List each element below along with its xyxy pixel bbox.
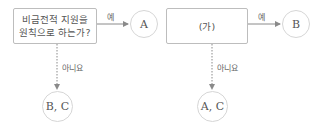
result-circle-no-2: A, C <box>197 91 228 122</box>
result-circle-no-1: B, C <box>42 91 73 122</box>
decision-box-2: (가) <box>166 8 248 44</box>
question-line-1: (가) <box>199 20 215 33</box>
result-text: A, C <box>201 100 224 113</box>
no-label-2: 아니요 <box>217 62 238 73</box>
decision-box-1: 비금전적 지원을 원칙으로 하는가? <box>13 8 97 44</box>
result-circle-yes-1: A <box>130 10 158 38</box>
no-label-1: 아니요 <box>62 62 83 73</box>
result-text: B <box>292 18 300 31</box>
result-circle-yes-2: B <box>282 10 310 38</box>
result-text: B, C <box>46 100 70 113</box>
question-line-2: 원칙으로 하는가? <box>19 26 90 39</box>
yes-label-2: 예 <box>258 11 265 22</box>
result-text: A <box>140 18 148 31</box>
yes-label-1: 예 <box>107 11 114 22</box>
question-line-1: 비금전적 지원을 <box>19 13 90 26</box>
